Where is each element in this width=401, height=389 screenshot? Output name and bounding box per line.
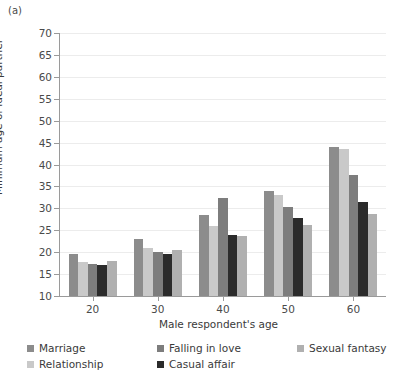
bar-falling-in-love-50: [283, 207, 293, 296]
y-axis-tick-label-30: 30: [26, 202, 52, 214]
legend-label: Falling in love: [169, 342, 241, 354]
legend-item-falling-in-love[interactable]: Falling in love: [157, 342, 297, 354]
legend-label: Marriage: [39, 342, 85, 354]
bar-relationship-20: [78, 262, 88, 296]
y-axis-tick-labels: 10152025303540455055606570: [22, 0, 52, 389]
y-axis-tick-label-35: 35: [26, 180, 52, 192]
x-axis-tick-label-60: 60: [347, 303, 360, 315]
bar-marriage-20: [69, 254, 79, 296]
bar-marriage-40: [199, 215, 209, 296]
x-axis-tick-30: [158, 296, 159, 301]
y-axis-tick-label-60: 60: [26, 71, 52, 83]
y-axis-tick-40: [54, 165, 59, 166]
bar-relationship-30: [143, 248, 153, 296]
bar-falling-in-love-20: [88, 264, 98, 296]
legend-label: Casual affair: [169, 358, 235, 370]
x-axis-tick-40: [223, 296, 224, 301]
bar-sexual-fantasy-20: [107, 261, 117, 296]
legend-swatch-icon: [27, 361, 34, 368]
legend-swatch-icon: [157, 361, 164, 368]
y-axis-tick-55: [54, 99, 59, 100]
bar-falling-in-love-40: [218, 198, 228, 296]
y-axis-tick-30: [54, 208, 59, 209]
y-axis-tick-50: [54, 121, 59, 122]
legend-item-marriage[interactable]: Marriage: [27, 342, 157, 354]
bar-marriage-50: [264, 191, 274, 296]
bar-marriage-30: [134, 239, 144, 296]
legend-swatch-icon: [157, 345, 164, 352]
bar-marriage-60: [329, 147, 339, 296]
bar-group-20: [69, 33, 117, 296]
y-axis-tick-label-50: 50: [26, 115, 52, 127]
x-axis-tick-20: [93, 296, 94, 301]
y-axis-tick-10: [54, 296, 59, 297]
y-axis-tick-label-45: 45: [26, 137, 52, 149]
legend-row: MarriageFalling in loveSexual fantasy: [27, 340, 397, 356]
plot-area: [60, 33, 386, 296]
bar-group-40: [199, 33, 247, 296]
bar-sexual-fantasy-60: [368, 214, 378, 296]
legend-item-casual-affair[interactable]: Casual affair: [157, 358, 297, 370]
x-axis-tick-label-50: 50: [282, 303, 295, 315]
y-axis-tick-35: [54, 186, 59, 187]
y-axis-tick-label-25: 25: [26, 224, 52, 236]
x-axis-tick-label-20: 20: [86, 303, 99, 315]
bar-relationship-40: [209, 226, 219, 296]
y-axis-tick-label-15: 15: [26, 268, 52, 280]
x-axis-title: Male respondent's age: [0, 318, 401, 330]
bar-casual-affair-50: [293, 218, 303, 296]
bar-casual-affair-60: [358, 202, 368, 296]
y-axis-tick-label-55: 55: [26, 93, 52, 105]
legend-label: Relationship: [39, 358, 103, 370]
y-axis-tick-45: [54, 143, 59, 144]
x-axis-title-text: Male respondent's age: [159, 318, 278, 330]
y-axis-tick-70: [54, 33, 59, 34]
y-axis-tick-65: [54, 55, 59, 56]
y-axis-tick-20: [54, 252, 59, 253]
bar-group-30: [134, 33, 182, 296]
legend-item-sexual-fantasy[interactable]: Sexual fantasy: [297, 342, 387, 354]
bar-casual-affair-40: [228, 235, 238, 296]
bar-relationship-60: [339, 149, 349, 296]
bar-group-60: [329, 33, 377, 296]
y-axis-tick-label-20: 20: [26, 246, 52, 258]
x-axis-tick-60: [353, 296, 354, 301]
legend-swatch-icon: [297, 345, 304, 352]
bar-casual-affair-30: [163, 254, 173, 296]
bar-sexual-fantasy-40: [237, 236, 247, 296]
y-axis-tick-label-10: 10: [26, 290, 52, 302]
bar-sexual-fantasy-30: [172, 250, 182, 296]
x-axis-tick-50: [288, 296, 289, 301]
y-axis-tick-60: [54, 77, 59, 78]
legend-swatch-icon: [27, 345, 34, 352]
legend-item-relationship[interactable]: Relationship: [27, 358, 157, 370]
bar-casual-affair-20: [97, 265, 107, 296]
chart-legend: MarriageFalling in loveSexual fantasyRel…: [27, 340, 397, 372]
bar-falling-in-love-60: [349, 175, 359, 296]
x-axis-tick-label-30: 30: [151, 303, 164, 315]
panel-label: (a): [8, 5, 22, 16]
legend-row: RelationshipCasual affair: [27, 356, 397, 372]
bar-relationship-50: [274, 195, 284, 296]
x-axis-tick-label-40: 40: [216, 303, 229, 315]
y-axis-tick-25: [54, 230, 59, 231]
bar-falling-in-love-30: [153, 252, 163, 296]
figure-panel-a: (a) Minimum age of ideal partner 1015202…: [0, 0, 401, 389]
y-axis-tick-15: [54, 274, 59, 275]
bar-group-50: [264, 33, 312, 296]
y-axis-tick-label-40: 40: [26, 159, 52, 171]
legend-label: Sexual fantasy: [309, 342, 387, 354]
bar-sexual-fantasy-50: [303, 225, 313, 296]
y-axis-tick-label-65: 65: [26, 49, 52, 61]
y-axis-tick-label-70: 70: [26, 27, 52, 39]
